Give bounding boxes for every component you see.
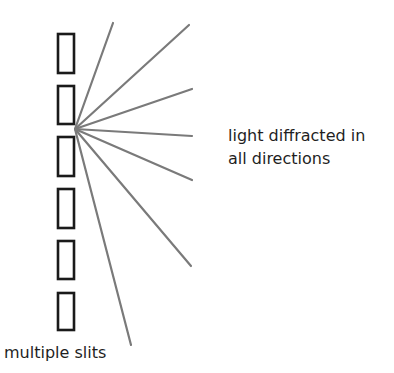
diffracted-ray bbox=[75, 25, 189, 129]
diagram-graphic bbox=[0, 0, 394, 373]
diffracted-light-label: light diffracted in all directions bbox=[228, 124, 365, 170]
diffracted-rays bbox=[75, 23, 192, 345]
diffracted-ray bbox=[75, 89, 192, 129]
diffracted-label-line-2: all directions bbox=[228, 147, 365, 170]
slit bbox=[58, 86, 74, 124]
slit bbox=[58, 34, 74, 73]
diffraction-diagram: light diffracted in all directions multi… bbox=[0, 0, 394, 373]
diffracted-ray bbox=[75, 129, 192, 136]
multiple-slits-label: multiple slits bbox=[4, 341, 106, 364]
diffracted-label-line-1: light diffracted in bbox=[228, 124, 365, 147]
slit bbox=[58, 241, 74, 279]
slit-barrier bbox=[58, 34, 74, 330]
slit bbox=[58, 137, 74, 176]
diffracted-ray bbox=[75, 129, 192, 180]
slit bbox=[58, 293, 74, 330]
slit bbox=[58, 189, 74, 228]
